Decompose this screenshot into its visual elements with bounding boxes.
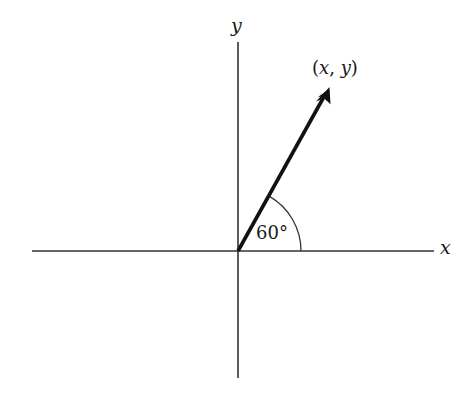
endpoint-label-open-paren: ( — [312, 57, 319, 78]
x-axis-label: x — [440, 236, 451, 258]
y-axis-label: y — [231, 14, 242, 36]
diagram-canvas — [0, 0, 475, 400]
coordinate-diagram: y x (x, y) 60° — [0, 0, 475, 400]
arrowhead-icon — [316, 87, 331, 105]
endpoint-label-close-paren: ) — [351, 57, 358, 78]
endpoint-label-x: x — [319, 57, 329, 78]
endpoint-label: (x, y) — [312, 57, 358, 78]
angle-label: 60° — [256, 222, 288, 243]
endpoint-label-y: y — [341, 57, 351, 78]
endpoint-label-separator: , — [329, 57, 340, 78]
